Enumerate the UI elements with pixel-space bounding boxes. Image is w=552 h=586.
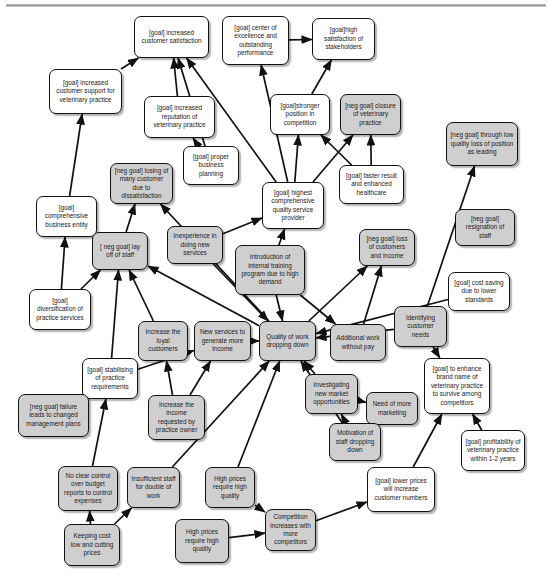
goal-node[interactable]: Quality of work dropping down [259, 321, 316, 361]
goal-edge [223, 218, 262, 234]
goal-node-label: [goal] diversification of practice servi… [33, 297, 87, 322]
goal-node-label: Investigating new market opportunities [309, 381, 354, 406]
goal-node[interactable]: [neg goal] loss of customers and income [359, 229, 415, 266]
goal-node-label: [goal] lower prices will increase custom… [371, 477, 431, 502]
goal-edge [279, 229, 285, 245]
goal-node[interactable]: Need of more marketing [366, 392, 418, 425]
goal-node[interactable]: [goal] proper business planning [183, 146, 239, 185]
goal-node-label: Increase the income requested by practic… [152, 401, 201, 435]
goal-node-label: [neg goal] resignation of staff [459, 215, 511, 240]
goal-node[interactable]: Increase the income requested by practic… [148, 395, 205, 440]
goal-node[interactable]: [goal] diversification of practice servi… [29, 289, 91, 330]
goal-node[interactable]: High prices require high quality [175, 519, 229, 563]
goal-edge [358, 400, 366, 402]
goal-node[interactable]: [goal] cost saving due to lower standard… [448, 272, 510, 311]
goal-node-label: [neg goal] closure of veterinary practic… [344, 102, 397, 127]
goal-edge [112, 270, 119, 358]
goal-node-label: Motivation of staff dropping down [333, 429, 377, 454]
goal-node[interactable]: [neg goal] through low quality loss of p… [446, 122, 518, 166]
goal-edge [316, 502, 367, 521]
goal-node-label: [goal] to enhance brand name of veterina… [428, 365, 486, 407]
goal-edge [93, 399, 106, 466]
goal-node[interactable]: [neg goal] closure of veterinary practic… [340, 94, 401, 135]
goal-edge [312, 60, 332, 94]
goal-node-label: [goal] comprehensive business entity [40, 204, 93, 229]
goal-edge [295, 135, 299, 182]
goal-edge [121, 58, 138, 69]
goal-node[interactable]: [goal] to enhance brand name of veterina… [424, 358, 490, 414]
goal-node-label: [goal] proper business planning [187, 153, 235, 178]
goal-node[interactable]: [goal] faster result and enhanced health… [339, 165, 404, 204]
goal-node[interactable]: High prices require high quality [205, 467, 255, 508]
goal-edge [70, 114, 83, 196]
goal-node[interactable]: [ neg goal] lay off of staff [92, 232, 148, 270]
goal-edge [229, 533, 265, 537]
goal-edge [167, 361, 173, 395]
goal-node-label: [goal] faster result and enhanced health… [343, 172, 400, 197]
goal-node-label: [goal]high satisfaction of stakeholders [316, 26, 371, 51]
goal-node-label: New services to generate more income [198, 328, 247, 353]
goal-node[interactable]: [goal] lower prices will increase custom… [367, 467, 435, 512]
goal-edge [174, 58, 178, 96]
goal-node[interactable]: Inexperience in doing new services [167, 226, 223, 264]
goal-node[interactable]: Competition increases with more competit… [265, 509, 316, 551]
goal-node[interactable]: Investigating new market opportunities [305, 374, 358, 414]
goal-node-label: High prices require high quality [209, 475, 251, 500]
goal-node-label: Insufficient staff for double of work [131, 475, 176, 500]
goal-node[interactable]: [neg goal] losing of many customer due t… [110, 163, 173, 204]
goal-node-label: [neg goal] losing of many customer due t… [114, 167, 169, 201]
goal-node[interactable]: [goal] increased customer satisfaction [134, 16, 209, 58]
goal-node[interactable]: Increase the loyal customers [138, 321, 188, 361]
goal-node-label: Increase the loyal customers [142, 328, 184, 353]
goal-node[interactable]: Keeping cost low and cutting prices [64, 524, 120, 566]
goal-edge [193, 138, 198, 146]
goal-node-label: No clear control over budget reports to … [62, 472, 114, 506]
goal-edge [309, 266, 368, 321]
goal-edge [433, 347, 440, 358]
goal-node[interactable]: Motivation of staff dropping down [329, 423, 381, 461]
goal-node[interactable]: No clear control over budget reports to … [58, 466, 118, 511]
goal-node-label: Introduction of internal training progra… [239, 253, 301, 287]
goal-node-label: Competition increases with more competit… [269, 513, 312, 547]
goal-node[interactable]: [goal]stronger position in competition [270, 94, 330, 135]
goal-node-label: [ neg goal] lay off of staff [96, 243, 144, 260]
goal-edge [413, 414, 442, 467]
goal-node[interactable]: [goal] profitability of veterinary pract… [461, 430, 525, 471]
goal-node[interactable]: [goal]high satisfaction of stakeholders [312, 18, 375, 60]
goal-node-label: [goal] highest comprehensive quality ser… [266, 189, 320, 223]
goal-node[interactable]: [goal] increased customer support for ve… [49, 69, 122, 114]
goal-edge [276, 295, 282, 321]
goal-node[interactable]: Introduction of internal training progra… [235, 245, 305, 295]
goal-node-label: High prices require high quality [179, 528, 225, 553]
goal-edge [115, 508, 132, 524]
goal-node[interactable]: [goal] center of excellence and outstand… [222, 16, 289, 65]
goal-node[interactable]: [neg goal] failure leads to changed mana… [18, 394, 89, 437]
goal-node-label: Keeping cost low and cutting prices [68, 532, 116, 557]
goal-node[interactable]: Identifying customer needs [394, 306, 447, 347]
goal-node[interactable]: [neg goal] resignation of staff [455, 209, 515, 246]
goal-diagram-canvas: [goal] increased customer satisfaction[g… [0, 0, 552, 586]
goal-edge [81, 270, 101, 289]
goal-edge [364, 266, 382, 324]
goal-edge [300, 295, 335, 324]
goal-node-label: [goal] increased customer satisfaction [138, 29, 205, 46]
goal-node-label: [neg goal] through low quality loss of p… [450, 131, 514, 156]
goal-node[interactable]: [goal] highest comprehensive quality ser… [262, 182, 324, 229]
goal-node-label: Additional work without pay [334, 334, 382, 351]
goal-node[interactable]: [goal] stabilising of practice requireme… [82, 358, 138, 399]
goal-edge [473, 414, 482, 430]
goal-node-label: [goal] increased customer support for ve… [53, 79, 118, 104]
goal-node[interactable]: [goal] increased reputation of veterinar… [144, 96, 215, 138]
goal-node[interactable]: New services to generate more income [194, 321, 251, 361]
goal-node-label: [neg goal] failure leads to changed mana… [22, 403, 85, 428]
goal-node-label: Identifying customer needs [398, 314, 443, 339]
goal-edge [61, 237, 65, 289]
goal-node-label: [goal] center of excellence and outstand… [226, 24, 285, 58]
goal-node[interactable]: Insufficient staff for double of work [127, 467, 180, 508]
goal-node[interactable]: Additional work without pay [330, 324, 386, 361]
goal-edge [321, 135, 352, 165]
goal-node-label: [goal] profitability of veterinary pract… [465, 438, 521, 463]
goal-node-label: [neg goal] loss of customers and income [363, 235, 411, 260]
goal-edge [190, 361, 211, 395]
goal-node[interactable]: [goal] comprehensive business entity [36, 196, 97, 237]
